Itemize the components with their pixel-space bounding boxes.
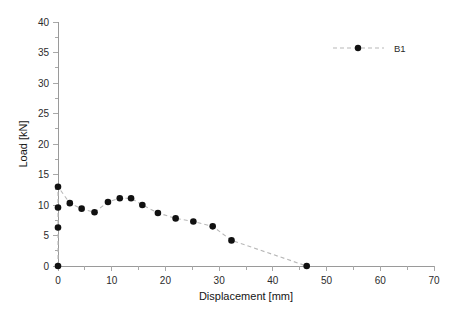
load-displacement-chart: 0510152025303540 Load [kN] 0102030405060… (0, 0, 456, 322)
x-tick-label: 60 (375, 275, 387, 286)
x-tick-label: 30 (214, 275, 226, 286)
y-tick-label: 30 (38, 78, 50, 89)
series-line-b1 (58, 187, 307, 266)
x-tick-label: 20 (160, 275, 172, 286)
y-tick-label: 15 (38, 169, 50, 180)
data-point (303, 263, 310, 270)
y-tick-label: 25 (38, 108, 50, 119)
y-axis-tick-labels: 0510152025303540 (38, 17, 50, 272)
x-axis: 010203040506070 Displacement [mm] (55, 266, 440, 302)
data-point (190, 218, 197, 225)
data-point (55, 183, 62, 190)
data-point (67, 200, 74, 207)
y-tick-label: 10 (38, 200, 50, 211)
y-axis: 0510152025303540 Load [kN] (17, 17, 58, 272)
y-tick-label: 35 (38, 47, 50, 58)
x-axis-tick-labels: 010203040506070 (55, 275, 440, 286)
legend-marker-b1 (355, 45, 361, 51)
x-tick-label: 0 (55, 275, 61, 286)
data-series-layer (55, 183, 310, 269)
x-tick-label: 50 (321, 275, 333, 286)
legend-label-b1: B1 (394, 43, 406, 54)
data-point (105, 199, 112, 206)
y-tick-label: 5 (43, 230, 49, 241)
data-point (55, 204, 62, 211)
y-tick-label: 20 (38, 139, 50, 150)
y-axis-title: Load [kN] (17, 120, 29, 167)
x-tick-label: 10 (106, 275, 118, 286)
data-point (172, 215, 179, 222)
data-point (78, 205, 85, 212)
x-tick-label: 70 (428, 275, 440, 286)
data-point (128, 195, 135, 202)
legend: B1 (333, 43, 406, 54)
data-point (91, 209, 98, 216)
x-axis-ticks (58, 266, 434, 271)
data-point (155, 210, 162, 217)
y-tick-label: 40 (38, 17, 50, 28)
x-axis-title: Displacement [mm] (199, 290, 293, 302)
data-point (209, 223, 216, 230)
data-point (55, 263, 62, 270)
y-tick-label: 0 (43, 261, 49, 272)
chart-container: 0510152025303540 Load [kN] 0102030405060… (0, 0, 456, 322)
data-point (228, 237, 235, 244)
data-point (55, 224, 62, 231)
x-tick-label: 40 (267, 275, 279, 286)
data-point (139, 202, 146, 209)
data-point (116, 195, 123, 202)
